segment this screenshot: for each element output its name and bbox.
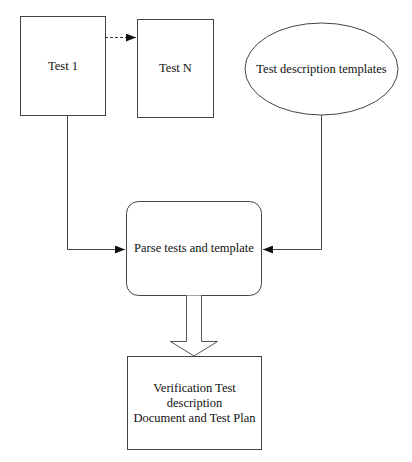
output-label-line-3: Document and Test Plan xyxy=(133,411,255,426)
output-label: Verification Test description Document a… xyxy=(127,356,262,450)
testn-label: Test N xyxy=(137,19,214,118)
templates-to-parse-connector xyxy=(263,115,322,250)
test1-label: Test 1 xyxy=(20,16,106,116)
output-label-line-1: Verification Test xyxy=(153,381,236,396)
output-label-line-2: description xyxy=(167,396,223,411)
templates-label: Test description templates xyxy=(245,23,398,115)
test1-to-parse-connector xyxy=(68,115,126,250)
parse-label: Parse tests and template xyxy=(126,201,262,296)
block-arrow xyxy=(171,296,218,357)
